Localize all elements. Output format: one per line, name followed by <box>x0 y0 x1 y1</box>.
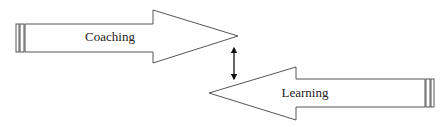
learning-label: Learning <box>282 85 329 100</box>
learning-arrow-tail-stripes <box>426 79 434 107</box>
coaching-label: Coaching <box>85 29 135 44</box>
coaching-arrow-tail-stripes <box>16 24 24 52</box>
coaching-arrow: Coaching <box>16 10 238 63</box>
diagram-canvas: Coaching Learning <box>0 0 447 127</box>
learning-arrow: Learning <box>209 67 434 120</box>
